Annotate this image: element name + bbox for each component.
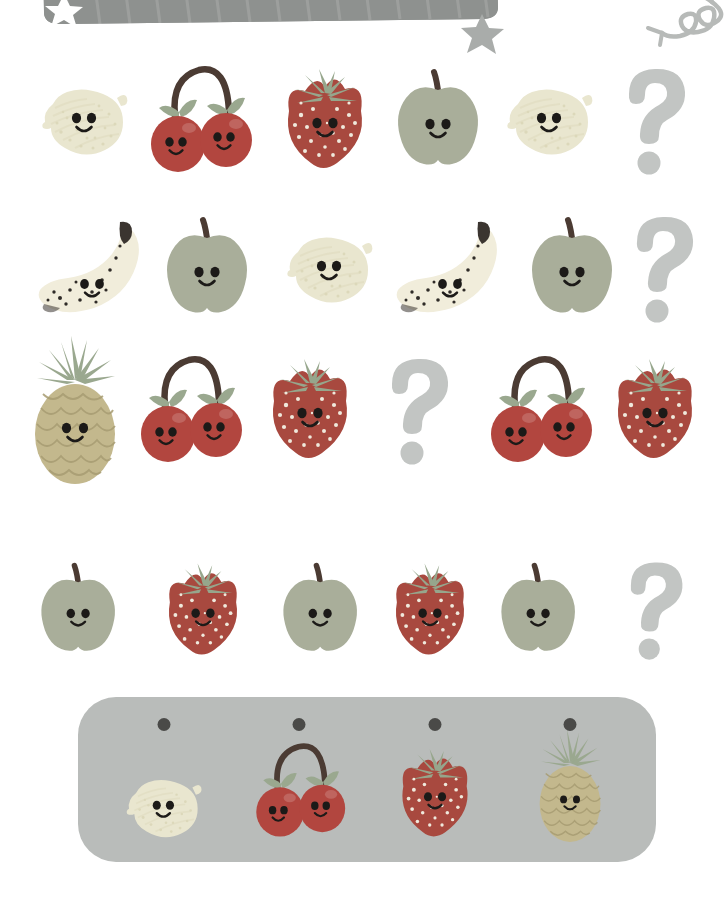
cherries-icon — [145, 60, 255, 180]
lemon-icon — [282, 226, 378, 310]
strawberry-icon — [391, 744, 479, 844]
apple-icon — [276, 562, 364, 658]
answer-marker-dot[interactable] — [564, 718, 577, 731]
pattern-item-banana — [32, 203, 152, 333]
pattern-item-cherries — [480, 345, 600, 475]
pattern-item-apple — [18, 545, 138, 675]
answer-slot-question[interactable] — [595, 55, 715, 185]
answer-bank-slots — [78, 697, 656, 862]
pattern-item-apple — [478, 545, 598, 675]
pattern-item-strawberry — [370, 545, 490, 675]
apple-icon — [494, 562, 582, 658]
answer-marker-dot[interactable] — [428, 718, 441, 731]
pattern-row-3 — [0, 345, 728, 545]
apple-icon — [159, 216, 255, 320]
lemon-icon — [502, 78, 598, 162]
pineapple-icon — [21, 334, 129, 486]
pattern-item-banana — [390, 203, 510, 333]
curved-arrow-icon — [512, 0, 721, 45]
answer-option-strawberry[interactable] — [375, 704, 495, 844]
pattern-item-lemon — [25, 55, 145, 185]
pattern-item-strawberry — [595, 345, 715, 475]
strawberry-art — [391, 744, 479, 844]
pattern-item-strawberry — [265, 55, 385, 185]
answer-option-pineapple[interactable] — [510, 704, 630, 844]
worksheet-page — [0, 0, 728, 912]
pineapple-art — [529, 728, 611, 844]
pattern-item-lemon — [270, 203, 390, 333]
pattern-item-lemon — [490, 55, 610, 185]
lemon-icon — [122, 770, 206, 844]
strawberry-icon — [157, 558, 249, 663]
strawberry-icon — [260, 353, 360, 467]
answer-slot-question[interactable] — [603, 203, 723, 333]
pattern-item-apple — [378, 55, 498, 185]
banana-icon — [34, 216, 150, 320]
pattern-item-cherries — [140, 55, 260, 185]
pattern-item-strawberry — [143, 545, 263, 675]
strawberry-icon — [605, 353, 705, 467]
pattern-row-1 — [0, 55, 728, 203]
cherries-art — [251, 738, 348, 844]
lemon-icon — [37, 78, 133, 162]
answer-bank — [78, 697, 656, 862]
question-icon — [378, 354, 458, 466]
pattern-item-pineapple — [15, 345, 135, 475]
apple-icon — [390, 68, 486, 172]
banana-icon — [392, 216, 508, 320]
pattern-row-4 — [0, 545, 728, 693]
answer-option-cherries[interactable] — [239, 704, 359, 844]
star-decoration-icon — [461, 14, 504, 54]
pattern-item-apple — [260, 545, 380, 675]
pattern-item-cherries — [130, 345, 250, 475]
answer-slot-question[interactable] — [358, 345, 478, 475]
lemon-art — [122, 770, 206, 844]
question-icon — [615, 64, 695, 176]
question-icon — [618, 558, 692, 661]
cherries-icon — [485, 350, 595, 470]
question-icon — [623, 212, 703, 324]
strawberry-icon — [384, 558, 476, 663]
answer-marker-dot[interactable] — [293, 718, 306, 731]
pattern-item-apple — [147, 203, 267, 333]
apple-icon — [34, 562, 122, 658]
answer-marker-dot[interactable] — [157, 718, 170, 731]
pattern-item-strawberry — [250, 345, 370, 475]
pineapple-icon — [529, 728, 611, 844]
strawberry-icon — [275, 63, 375, 177]
cherries-icon — [135, 350, 245, 470]
banner-star-icon — [45, 0, 83, 28]
answer-option-lemon[interactable] — [104, 704, 224, 844]
cherries-icon — [251, 738, 348, 844]
pattern-row-2 — [0, 203, 728, 351]
title-banner — [42, 0, 498, 28]
answer-slot-question[interactable] — [595, 545, 715, 675]
